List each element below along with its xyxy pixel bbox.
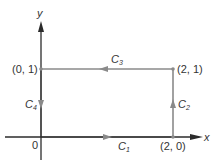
- x-axis-arrow-icon: [190, 134, 203, 140]
- y-axis-label: y: [36, 7, 44, 19]
- point-label-2-0: (2, 0): [160, 140, 186, 152]
- point-label-2-1: (2, 1): [177, 63, 203, 75]
- vertex-0-1: [39, 67, 43, 71]
- c1-direction-arrow-icon: [103, 134, 112, 140]
- segment-label-c3: C3: [111, 53, 123, 66]
- c4-direction-arrow-icon: [38, 100, 44, 109]
- segment-label-c2: C2: [178, 98, 190, 111]
- origin-label: 0: [32, 139, 38, 151]
- x-axis-label: x: [203, 131, 210, 143]
- c3-direction-arrow-icon: [99, 66, 108, 72]
- contour-diagram: y x 0 (0, 1) (2, 1) (2, 0) C1 C2 C3 C4: [0, 0, 215, 167]
- segment-label-c4: C4: [25, 98, 37, 111]
- point-label-0-1: (0, 1): [12, 63, 38, 75]
- segment-label-c1: C1: [118, 140, 130, 153]
- c2-direction-arrow-icon: [170, 99, 176, 108]
- vertex-2-0: [171, 135, 175, 139]
- y-axis-arrow-icon: [38, 21, 44, 32]
- vertex-2-1: [171, 67, 175, 71]
